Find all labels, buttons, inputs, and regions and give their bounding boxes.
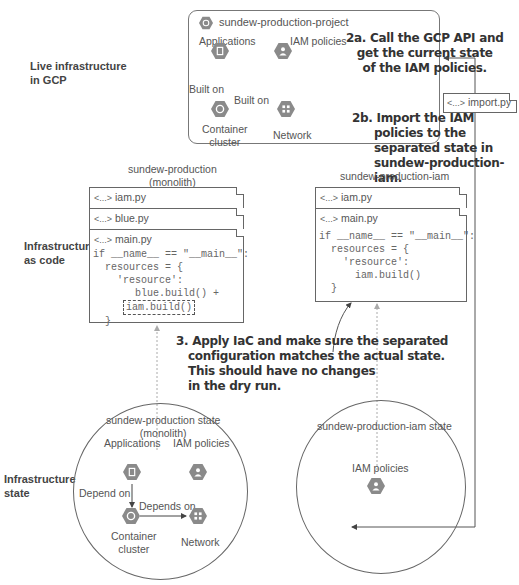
label-line: as code (24, 253, 96, 267)
code-file-icon: <...> (94, 235, 112, 245)
note-step-3: 3. Apply IaC and make sure the separated… (176, 334, 448, 394)
edge-depend-on-label: Depend on (79, 487, 130, 500)
note-line: in the dry run. (176, 379, 448, 394)
code-file-icon: <...> (320, 193, 338, 203)
label-live-infrastructure: Live infrastructure in GCP (30, 59, 127, 87)
label-infrastructure-as-code: Infrastructure as code (24, 239, 96, 267)
note-line: separated state in (352, 141, 519, 156)
monolith-main-py-file[interactable]: <...>main.py if __name__ == "__main__": … (89, 229, 244, 323)
code-line: if __name__ == "__main__": (93, 248, 243, 261)
label-line: Infrastructure (24, 239, 96, 253)
note-line: 2b. Import the IAM (352, 111, 519, 126)
monolith-repo-title: sundew-production (monolith) (128, 163, 217, 189)
code-file-icon: <...> (320, 214, 338, 224)
code-line: } (319, 282, 466, 295)
code-line: if __name__ == "__main__": (319, 230, 466, 243)
label-line: cluster (202, 136, 248, 149)
state-applications-label: Applications (104, 437, 161, 450)
iam-state-iam-policies-label: IAM policies (352, 462, 409, 475)
code-file-icon: <...> (447, 98, 465, 108)
note-line: 2a. Call the GCP API and (346, 31, 503, 46)
file-name: main.py (341, 212, 378, 224)
iam-state-iam-policies-icon (367, 477, 385, 495)
file-name: iam.py (341, 191, 372, 203)
node-network-label: Network (273, 129, 312, 142)
code-line: resources = { (319, 243, 466, 256)
title-line: sundew-production state (106, 414, 220, 427)
label-infrastructure-state: Infrastructure state (4, 472, 76, 500)
page-fold-icon (459, 208, 467, 216)
network-icon (277, 100, 295, 118)
state-network-icon (189, 507, 207, 525)
iam-repo-main-py-file[interactable]: <...>main.py if __name__ == "__main__": … (315, 208, 467, 302)
code-line: blue.build() + (93, 287, 243, 300)
code-file-icon: <...> (94, 193, 112, 203)
page-fold-icon (236, 187, 244, 195)
container-cluster-icon (211, 100, 229, 118)
note-line: 3. Apply IaC and make sure the separated (176, 334, 448, 349)
gcp-project-icon (199, 16, 213, 30)
monolith-iam-py-file[interactable]: <...>iam.py (89, 187, 244, 209)
import-py-file[interactable]: <...>import.py (443, 93, 517, 113)
label-line: state (4, 486, 76, 500)
iam-state-title: sundew-production-iam state (317, 420, 452, 433)
node-container-cluster-label: Container cluster (202, 123, 248, 149)
iam-repo-title: sundew-production-iam (340, 170, 449, 183)
code-block: if __name__ == "__main__": resources = {… (319, 230, 466, 295)
label-line: Infrastructure (4, 472, 76, 486)
code-line: 'resource': (93, 274, 243, 287)
code-line: resources = { (93, 261, 243, 274)
gcp-project-title: sundew-production-project (219, 16, 349, 29)
iam-policies-icon (274, 42, 292, 60)
state-container-cluster-label: Container cluster (111, 530, 157, 556)
state-iam-policies-icon (189, 463, 207, 481)
file-name: import.py (468, 96, 511, 108)
code-line: 'resource': (319, 256, 466, 269)
title-line: sundew-production (128, 163, 217, 176)
note-step-2a: 2a. Call the GCP API and get the current… (346, 31, 503, 76)
note-line: This should have no changes (176, 364, 448, 379)
file-name: main.py (115, 233, 152, 245)
node-iam-policies-label: IAM policies (290, 35, 347, 48)
page-fold-icon (236, 229, 244, 237)
note-line: configuration matches the actual state. (176, 349, 448, 364)
applications-icon (211, 42, 229, 60)
monolith-blue-py-file[interactable]: <...>blue.py (89, 208, 244, 230)
highlighted-iam-build: iam.build() (123, 300, 195, 315)
state-iam-policies-label: IAM policies (173, 437, 230, 450)
label-line: cluster (111, 543, 157, 556)
state-network-label: Network (181, 536, 220, 549)
note-line: of the IAM policies. (346, 61, 503, 76)
state-applications-icon (123, 463, 141, 481)
label-line: Container (202, 123, 248, 136)
edge-built-on-label: Built on (189, 83, 224, 96)
code-file-icon: <...> (94, 214, 112, 224)
code-line: iam.build() (319, 269, 466, 282)
label-line: Live infrastructure (30, 59, 127, 73)
page-fold-icon (509, 93, 517, 101)
code-block: if __name__ == "__main__": resources = {… (93, 248, 243, 328)
edge-depends-on-label: Depends on (139, 500, 196, 513)
page-fold-icon (459, 187, 467, 195)
file-name: iam.py (115, 191, 146, 203)
label-line: in GCP (30, 73, 127, 87)
edge-built-on-label: Built on (234, 94, 269, 107)
label-line: Container (111, 530, 157, 543)
iam-repo-iam-py-file[interactable]: <...>iam.py (315, 187, 467, 209)
code-line: } (93, 315, 243, 328)
file-name: blue.py (115, 212, 149, 224)
state-container-cluster-icon (122, 507, 140, 525)
note-line: get the current state (346, 46, 503, 61)
note-line: policies to the (352, 126, 519, 141)
page-fold-icon (236, 208, 244, 216)
